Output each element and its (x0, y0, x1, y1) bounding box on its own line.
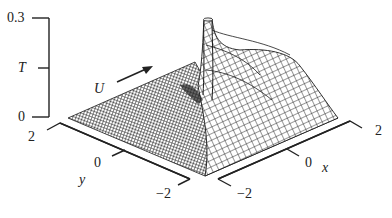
z-axis-label: T (18, 61, 26, 75)
z-tick-top: 0.3 (7, 11, 25, 25)
x-tick-2: 2 (375, 124, 382, 138)
y-tick-2: 2 (28, 130, 35, 144)
surface-plot (0, 0, 392, 218)
t-axis (32, 18, 49, 117)
y-axis-label: y (79, 173, 85, 187)
x-tick-0: 0 (305, 156, 312, 170)
x-axis-label: x (322, 161, 328, 175)
x-tick-m2: −2 (237, 187, 252, 201)
surface-mesh (68, 18, 338, 176)
flow-label: U (94, 82, 104, 96)
y-tick-0: 0 (94, 156, 101, 170)
z-tick-bottom: 0 (18, 110, 25, 124)
flow-arrow-icon (117, 66, 153, 82)
y-tick-m2: −2 (156, 187, 171, 201)
